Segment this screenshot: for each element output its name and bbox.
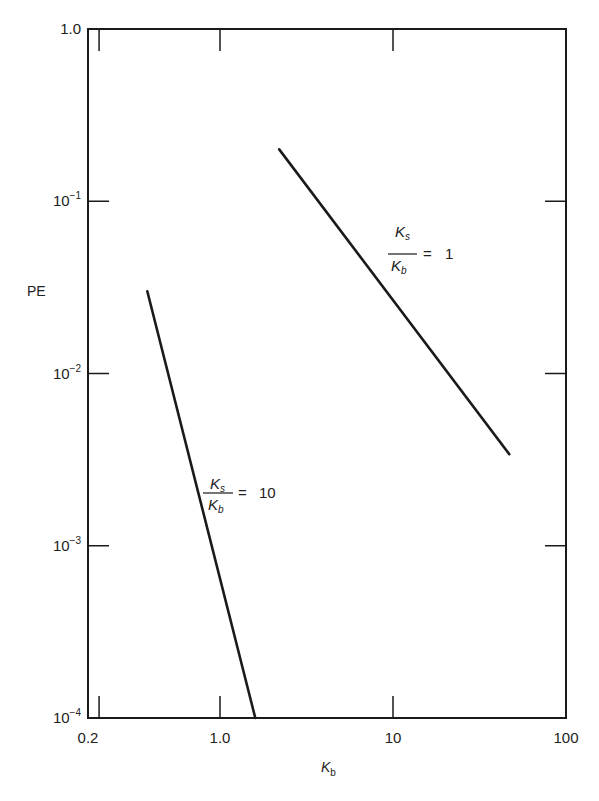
x-tick-label: 10 — [385, 729, 402, 746]
y-tick-label: 1.0 — [60, 20, 81, 37]
anno1-num-sub: s — [405, 231, 410, 242]
pe-vs-kb-chart: 1.010−110−210−310−4 0.21.010100 PE Kb Ks… — [0, 0, 599, 801]
axis-ticks — [88, 29, 566, 718]
data-series — [147, 149, 509, 718]
series-line-1 — [279, 149, 509, 454]
y-tick-labels: 1.010−110−210−310−4 — [53, 20, 82, 726]
series-line-2 — [147, 291, 255, 718]
y-tick-label: 10−2 — [53, 363, 82, 382]
x-tick-labels: 0.21.010100 — [78, 729, 579, 746]
y-tick-label: 10−3 — [53, 535, 82, 554]
x-axis-title: Kb — [321, 759, 336, 778]
anno2-den-sub: b — [218, 504, 224, 515]
x-axis-title-sub: b — [330, 767, 336, 778]
annotation-ks-kb-10: Ks Kb = 10 — [203, 475, 276, 515]
y-tick-label: 10−4 — [53, 707, 82, 726]
plot-frame — [88, 29, 566, 718]
anno1-value: 1 — [445, 245, 453, 262]
svg-text:Kb: Kb — [208, 496, 224, 515]
anno1-den-sub: b — [401, 265, 407, 276]
x-tick-label: 1.0 — [210, 729, 231, 746]
svg-text:Ks: Ks — [395, 223, 410, 242]
anno2-value: 10 — [259, 484, 276, 501]
x-tick-label: 100 — [553, 729, 578, 746]
y-axis-title: PE — [27, 283, 46, 299]
svg-text:Kb: Kb — [391, 257, 407, 276]
anno2-eq: = — [238, 484, 247, 501]
anno1-eq: = — [423, 245, 432, 262]
annotation-ks-kb-1: Ks Kb = 1 — [388, 223, 453, 276]
y-tick-label: 10−1 — [53, 190, 82, 209]
svg-text:Ks: Ks — [210, 475, 225, 494]
x-tick-label: 0.2 — [78, 729, 99, 746]
anno2-num-sub: s — [220, 483, 225, 494]
